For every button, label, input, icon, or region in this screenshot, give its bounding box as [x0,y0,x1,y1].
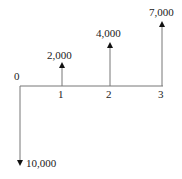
cash-flow-diagram [0,0,182,179]
period-label-0: 0 [14,71,20,82]
period-label-2: 2 [106,89,112,100]
period-label-3: 3 [158,89,164,100]
period-label-1: 1 [58,89,64,100]
flow-amount-1: 2,000 [47,50,72,61]
flow-amount-3: 7,000 [149,7,174,18]
flow-amount-0: 10,000 [26,158,56,169]
flow-amount-2: 4,000 [96,28,121,39]
